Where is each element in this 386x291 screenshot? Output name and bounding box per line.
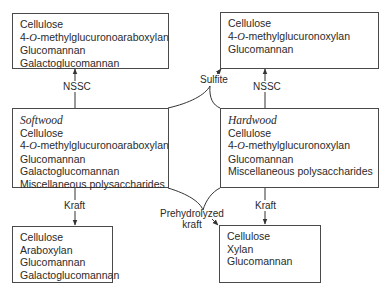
item: 4-O-methylglucuronoaraboxylan [20,139,168,153]
label-prehydrolyzed-kraft: Prehydrolyzed kraft [160,208,224,230]
box-prehydrolyzed-kraft-product: Cellulose Xylan Glucomannan [219,225,321,283]
item: Glucomannan [20,44,168,57]
item: Araboxylan [20,244,112,257]
item: Miscellaneous polysaccharides [20,178,168,191]
item: Cellulose [227,230,320,243]
label-line: Prehydrolyzed [160,208,224,219]
box-title: Hardwood [228,114,378,127]
item: Galactoglucomannan [20,57,168,70]
label-line: kraft [160,219,224,230]
item: Galactoglucomannan [20,165,168,178]
label-nssc-hardwood: NSSC [252,81,282,92]
label-kraft-softwood: Kraft [63,200,86,211]
label-nssc-softwood: NSSC [62,81,92,92]
item: Cellulose [20,18,168,31]
item: Cellulose [20,231,112,244]
box-hardwood: Hardwood Cellulose 4-O-methylglucuronoxy… [220,108,379,188]
curve-sulfite-softwood [168,86,210,108]
item: 4-O-methylglucuronoaraboxylan [20,31,168,45]
item: Cellulose [20,127,168,140]
box-softwood: Softwood Cellulose 4-O-methylglucuronoar… [12,108,169,188]
item: Miscellaneous polysaccharides [228,165,378,178]
label-kraft-hardwood: Kraft [254,200,277,211]
item: Cellulose [228,127,378,140]
item: Cellulose [228,17,378,30]
item: Glucomannan [227,255,320,268]
item: 4-O-methylglucuronoxylan [228,30,378,44]
box-hardwood-sulfite-nssc-product: Cellulose 4-O-methylglucuronoxylan Gluco… [220,12,379,69]
item: Glucomannan [20,153,168,166]
item: Xylan [227,243,320,256]
item: Galactoglucomannan [20,269,112,282]
label-sulfite: Sulfite [200,74,228,85]
item: 4-O-methylglucuronoxylan [228,139,378,153]
box-title: Softwood [20,114,168,127]
box-softwood-nssc-product: Cellulose 4-O-methylglucuronoaraboxylan … [12,13,169,69]
item: Glucomannan [228,153,378,166]
item: Glucomannan [228,43,378,56]
curve-prehydrolyzed-hardwood [203,188,220,210]
box-softwood-kraft-product: Cellulose Araboxylan Glucomannan Galacto… [12,226,113,283]
curve-sulfite-hardwood [210,86,220,108]
curve-prehydrolyzed-softwood [168,188,203,210]
item: Glucomannan [20,256,112,269]
